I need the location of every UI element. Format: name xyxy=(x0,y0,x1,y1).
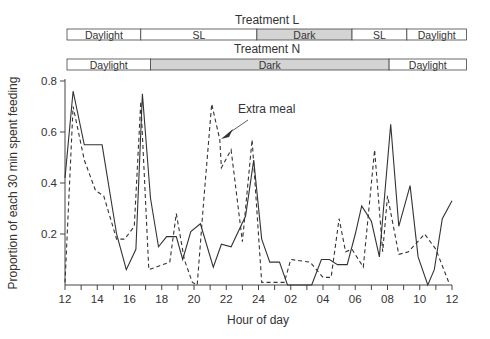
band-segment-label: Dark xyxy=(293,29,316,41)
band-segment-label: Daylight xyxy=(85,29,123,41)
x-ticks: 12141618202224020406081012 xyxy=(59,285,459,305)
band-segment-label: Dark xyxy=(259,59,282,71)
y-axis-label: Proportion of each 30 min spent feeding xyxy=(6,77,20,290)
x-tick-label: 02 xyxy=(284,293,297,305)
x-tick-label: 06 xyxy=(349,293,362,305)
arrow-head-icon xyxy=(221,129,233,139)
band-segment-label: Daylight xyxy=(409,59,447,71)
x-tick-label: 20 xyxy=(188,293,201,305)
x-tick-label: 18 xyxy=(155,293,168,305)
band-segment-label: Daylight xyxy=(90,59,128,71)
y-tick-label: 0.6 xyxy=(41,126,57,138)
x-tick-label: 08 xyxy=(381,293,394,305)
x-tick-label: 12 xyxy=(59,293,72,305)
x-tick-label: 10 xyxy=(413,293,426,305)
band-segment-label: SL xyxy=(373,29,386,41)
x-tick-label: 24 xyxy=(252,293,265,305)
x-axis-label: Hour of day xyxy=(227,313,289,327)
band-title: Treatment N xyxy=(234,42,300,56)
y-tick-label: 0.8 xyxy=(41,75,57,87)
band-treatment-n: Treatment NDaylightDarkDaylight xyxy=(67,42,467,71)
series-treatment-l xyxy=(65,91,452,285)
band-segment-label: Daylight xyxy=(418,29,456,41)
x-tick-label: 12 xyxy=(446,293,459,305)
band-segment-label: SL xyxy=(192,29,205,41)
x-tick-label: 04 xyxy=(317,293,330,305)
chart: Treatment LDaylightSLDarkSLDaylightTreat… xyxy=(0,0,490,339)
annotations: Extra meal xyxy=(221,102,295,139)
series-lines xyxy=(65,91,452,285)
y-tick-label: 0.4 xyxy=(41,177,58,189)
annotation-label: Extra meal xyxy=(238,102,295,116)
x-tick-label: 14 xyxy=(91,293,104,305)
x-tick-label: 16 xyxy=(123,293,136,305)
y-ticks: 0.20.40.60.8 xyxy=(41,75,65,240)
y-tick-label: 0.2 xyxy=(41,228,57,240)
band-treatment-l: Treatment LDaylightSLDarkSLDaylight xyxy=(67,13,467,41)
band-title: Treatment L xyxy=(235,13,300,27)
photoperiod-bands: Treatment LDaylightSLDarkSLDaylightTreat… xyxy=(67,13,467,71)
x-tick-label: 22 xyxy=(220,293,233,305)
